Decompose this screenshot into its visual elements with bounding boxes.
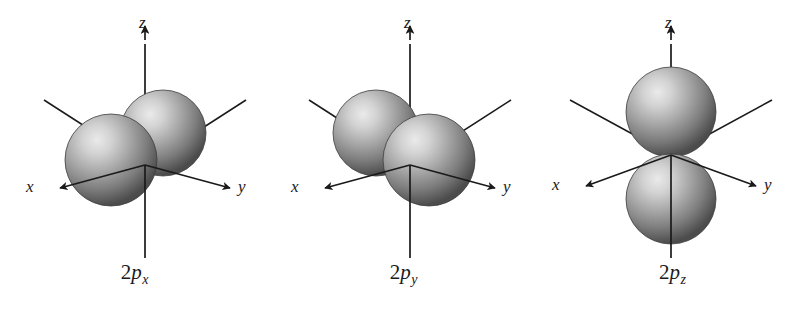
axis-label-y: y bbox=[764, 176, 772, 193]
orbital-lobe bbox=[626, 67, 716, 157]
orbital-lobes-2px bbox=[65, 90, 206, 206]
p-orbitals-figure: z x y 2px bbox=[0, 0, 806, 311]
orbital-panel-2pz: z x y 2pz bbox=[538, 0, 806, 311]
orbital-panel-2px: z x y 2px bbox=[0, 0, 269, 311]
caption-symbol: p bbox=[131, 260, 142, 284]
axis-label-z: z bbox=[404, 14, 411, 31]
axis-label-z: z bbox=[665, 14, 672, 31]
caption-symbol: p bbox=[400, 260, 411, 284]
axis-label-x: x bbox=[26, 178, 34, 195]
axis-label-x: x bbox=[291, 178, 299, 195]
orbital-lobe bbox=[65, 114, 157, 206]
caption-prefix: 2 bbox=[659, 260, 670, 284]
caption-prefix: 2 bbox=[390, 260, 401, 284]
orbital-caption-2px: 2px bbox=[0, 262, 269, 287]
axis-label-x: x bbox=[552, 176, 560, 193]
caption-subscript: z bbox=[681, 272, 686, 287]
caption-prefix: 2 bbox=[121, 260, 132, 284]
axis-label-y: y bbox=[238, 178, 246, 195]
axis-label-y: y bbox=[503, 178, 511, 195]
orbital-lobe bbox=[383, 114, 475, 206]
caption-symbol: p bbox=[670, 260, 681, 284]
caption-subscript: y bbox=[411, 272, 417, 287]
orbital-caption-2pz: 2pz bbox=[538, 262, 806, 287]
caption-subscript: x bbox=[142, 272, 148, 287]
orbital-lobes-2py bbox=[333, 90, 475, 206]
orbital-panel-2py: z x y 2py bbox=[269, 0, 538, 311]
axis-label-z: z bbox=[139, 14, 146, 31]
orbital-caption-2py: 2py bbox=[269, 262, 538, 287]
